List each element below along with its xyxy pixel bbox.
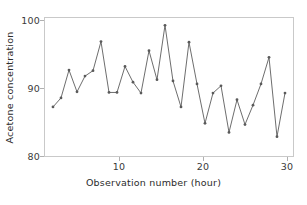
data-point (116, 91, 119, 94)
series-path (53, 25, 285, 136)
data-point (84, 75, 87, 78)
x-axis-label: Observation number (hour) (0, 177, 307, 188)
data-point (268, 56, 271, 59)
data-point (100, 40, 103, 43)
data-point (244, 123, 247, 126)
x-axis-tick-labels: 10 20 30 (0, 161, 307, 175)
data-point (172, 80, 175, 83)
data-point (68, 69, 71, 72)
data-point (284, 92, 287, 95)
data-point (252, 104, 255, 107)
x-tick-label-20: 20 (188, 161, 218, 172)
data-point (156, 78, 159, 81)
data-point (276, 135, 279, 138)
data-point (124, 65, 127, 68)
data-point (60, 97, 63, 100)
data-series-line (45, 18, 293, 156)
y-tick-label-100: 100 (4, 15, 40, 26)
data-point (236, 98, 239, 101)
data-point (220, 84, 223, 87)
data-point (108, 91, 111, 94)
data-point (228, 131, 231, 134)
y-tick-label-90: 90 (4, 83, 40, 94)
x-tick-label-10: 10 (104, 161, 134, 172)
data-point (92, 69, 95, 72)
data-point (188, 41, 191, 44)
data-point (132, 81, 135, 84)
data-point (76, 90, 79, 93)
data-point (140, 92, 143, 95)
data-point (164, 24, 167, 27)
data-point (148, 49, 151, 52)
x-tick-label-30: 30 (272, 161, 302, 172)
plot-area (44, 17, 294, 157)
data-point (212, 92, 215, 95)
data-point (196, 83, 199, 86)
chart-figure: Acetone concentration 100 90 80 10 20 30… (0, 0, 307, 205)
data-point (260, 83, 263, 86)
data-point (204, 122, 207, 125)
data-point (180, 106, 183, 109)
data-point (52, 106, 55, 109)
